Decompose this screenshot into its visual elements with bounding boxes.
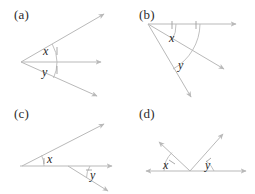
panel-label-b: (b) <box>139 7 155 23</box>
panel-label-c: (c) <box>14 106 29 122</box>
figure-lines <box>0 0 255 194</box>
panel-a-angle-label-x: x <box>43 44 48 59</box>
panel-c-geometry <box>20 124 112 191</box>
panel-a-upper-ray <box>21 14 104 62</box>
panel-a-lower-ray <box>21 62 97 96</box>
panel-d-angle-label-x: x <box>163 158 168 173</box>
panel-d-geometry <box>146 134 246 171</box>
panel-b-angle-label-y: y <box>178 58 183 73</box>
panel-a-angle-label-y: y <box>42 65 47 80</box>
panel-a-geometry <box>21 14 104 96</box>
panel-d-angle-label-y: y <box>205 158 210 173</box>
panel-c-angle-label-x: x <box>47 152 52 167</box>
panel-c-angle-label-y: y <box>90 168 95 183</box>
panel-a-arc-y <box>54 62 58 78</box>
panel-c-upper-ray <box>22 124 104 166</box>
panel-b-angle-label-x: x <box>169 31 174 46</box>
panel-b-middle-ray <box>148 24 224 69</box>
panel-a-arc-x <box>52 44 57 62</box>
panel-label-d: (d) <box>139 106 155 122</box>
panel-label-a: (a) <box>14 7 29 23</box>
panel-d-tick-x <box>169 160 175 164</box>
panel-b-geometry <box>148 21 236 97</box>
geometry-figure: (a) (b) (c) (d) x y x y x y x y <box>0 0 255 194</box>
